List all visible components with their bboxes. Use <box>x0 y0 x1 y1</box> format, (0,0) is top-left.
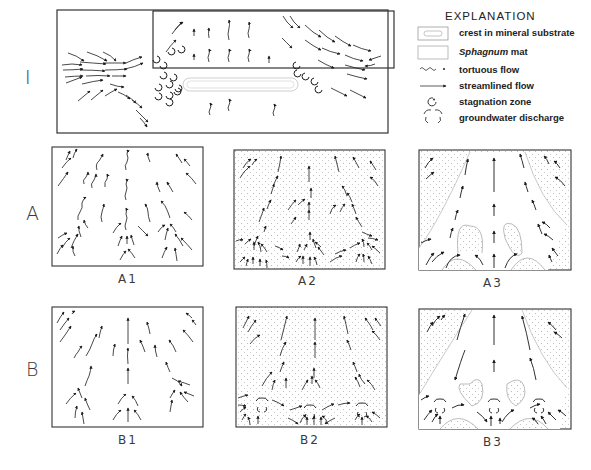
legend-item-sphagnum-rest: mat <box>508 46 528 57</box>
legend-symbols <box>418 27 448 123</box>
panel-A3 <box>419 150 571 270</box>
tortuous-flow-icon <box>420 68 436 71</box>
legend-item-sphagnum: Sphagnum mat <box>459 46 528 57</box>
sphagnum-icon <box>418 46 448 59</box>
panel-B3 <box>419 309 571 429</box>
legend-item-stagnation: stagnation zone <box>459 96 531 107</box>
legend-title: EXPLANATION <box>445 10 536 22</box>
legend-item-crest: crest in mineral substrate <box>459 27 575 38</box>
legend-item-streamlined: streamlined flow <box>459 80 534 91</box>
panel-A1 <box>52 147 203 266</box>
legend-item-discharge: groundwater discharge <box>459 112 564 123</box>
crest-shape <box>183 78 298 91</box>
legend-item-sphagnum-italic: Sphagnum <box>459 46 508 57</box>
legend-item-tortuous: tortuous flow <box>459 64 519 75</box>
crest-icon <box>418 27 448 40</box>
panel-B1 <box>52 307 203 427</box>
panel-A2 <box>234 150 385 269</box>
panel-B2 <box>236 307 387 427</box>
panel-I <box>57 10 394 133</box>
discharge-icon <box>424 110 442 123</box>
